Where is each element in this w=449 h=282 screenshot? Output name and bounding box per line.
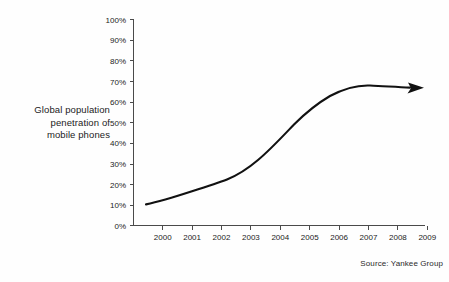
y-tick-label: 100% xyxy=(106,16,126,25)
y-tick-label: 10% xyxy=(110,201,126,210)
y-tick-label: 20% xyxy=(110,181,126,190)
y-tick-label: 90% xyxy=(110,36,126,45)
y-tick-label: 30% xyxy=(110,160,126,169)
x-tick-label: 2003 xyxy=(242,233,260,242)
x-tick-label: 2005 xyxy=(301,233,319,242)
y-tick-label: 50% xyxy=(110,119,126,128)
y-tick-label: 70% xyxy=(110,78,126,87)
x-tick-label: 2007 xyxy=(360,233,378,242)
x-tick-label: 2006 xyxy=(330,233,348,242)
y-axis-label-line-1: Global population xyxy=(6,104,110,117)
x-tick-label: 2001 xyxy=(183,233,201,242)
y-tick-label: 0% xyxy=(114,222,126,231)
x-tick-label: 2009 xyxy=(418,233,436,242)
chart-figure: Global population penetration of mobile … xyxy=(0,0,449,282)
data-line-global-mobile-penetration xyxy=(146,85,410,204)
y-tick-label: 40% xyxy=(110,139,126,148)
y-tick-label: 80% xyxy=(110,57,126,66)
y-axis-label-line-3: mobile phones xyxy=(6,129,110,142)
y-axis-label-line-2: penetration of xyxy=(6,117,110,130)
x-axis-ticks: 2000 2001 2002 2003 2004 2005 2006 2007 … xyxy=(154,226,437,243)
y-tick-label: 60% xyxy=(110,98,126,107)
x-tick-label: 2002 xyxy=(213,233,231,242)
x-tick-label: 2004 xyxy=(271,233,289,242)
x-tick-label: 2008 xyxy=(389,233,407,242)
y-axis-label: Global population penetration of mobile … xyxy=(6,104,110,142)
source-attribution: Source: Yankee Group xyxy=(300,259,443,268)
x-tick-label: 2000 xyxy=(154,233,172,242)
